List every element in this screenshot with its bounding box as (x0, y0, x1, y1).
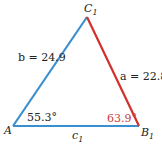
vertex-c1-label: C1 (84, 2, 98, 17)
side-a-label: a = 22.8 (120, 70, 162, 83)
angle-b1-label: 63.9° (107, 112, 137, 125)
angle-a-label: 55.3° (27, 111, 57, 124)
side-b-label: b = 24.9 (18, 51, 66, 64)
vertex-a-label: A (3, 124, 12, 137)
triangle-diagram: C1 A B1 b = 24.9 a = 22.8 c1 55.3° 63.9° (0, 0, 162, 152)
side-c1-label: c1 (72, 129, 83, 144)
side-b (13, 17, 87, 126)
vertex-b1-label: B1 (140, 126, 154, 141)
